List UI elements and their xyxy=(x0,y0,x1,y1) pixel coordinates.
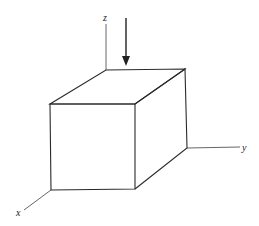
force-arrow-icon xyxy=(122,18,130,66)
x-axis xyxy=(24,190,51,210)
diagram-svg: z y x xyxy=(0,0,259,226)
cube-top-face xyxy=(50,69,185,104)
y-axis xyxy=(187,147,240,148)
cube-right-face xyxy=(135,69,187,189)
cube-diagram: z y x xyxy=(0,0,259,226)
cube xyxy=(50,69,187,190)
cube-front-face xyxy=(50,104,135,190)
y-axis-label: y xyxy=(241,142,247,153)
axes xyxy=(24,24,240,210)
z-axis-label: z xyxy=(102,12,107,23)
x-axis-label: x xyxy=(15,207,21,218)
